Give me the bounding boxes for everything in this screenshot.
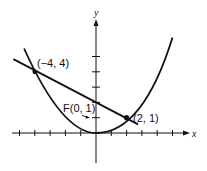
y-axis-label: y: [93, 7, 99, 18]
x-axis-arrow-icon: [183, 131, 190, 136]
x-axis-label: x: [191, 128, 197, 139]
point-neg4-4: [32, 69, 37, 74]
point-label-2-1: (2, 1): [133, 112, 159, 124]
secant-line: [13, 59, 138, 124]
focus-arrow-icon: [82, 116, 90, 119]
point-2-1: [124, 115, 129, 120]
y-axis-arrow-icon: [94, 19, 99, 26]
focus-label: F(0, 1): [63, 102, 95, 114]
coordinate-plot: (−4, 4) (2, 1) F(0, 1) x y: [0, 0, 207, 171]
point-label-neg4-4: (−4, 4): [37, 57, 69, 69]
